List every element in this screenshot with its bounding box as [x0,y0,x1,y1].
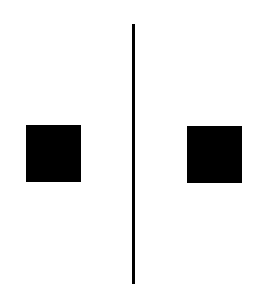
diagram-canvas [0,0,270,301]
right-square [187,126,242,183]
vertical-divider-line [132,24,135,284]
left-square [26,125,81,182]
